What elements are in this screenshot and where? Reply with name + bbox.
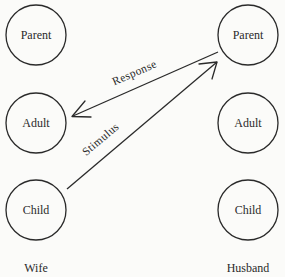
stimulus-arrow-line bbox=[67, 62, 217, 189]
wife-parent-state: Parent bbox=[6, 5, 66, 65]
response-label: Response bbox=[110, 57, 159, 88]
ego-state-diagram: Parent Adult Child Wife Parent Adult Chi… bbox=[0, 0, 285, 277]
stimulus-arrow: Stimulus bbox=[67, 62, 217, 189]
response-arrow: Response bbox=[72, 52, 218, 117]
husband-column-label: Husband bbox=[227, 261, 270, 275]
husband-column: Parent Adult Child Husband bbox=[218, 5, 278, 275]
stimulus-label: Stimulus bbox=[80, 120, 121, 158]
husband-child-label: Child bbox=[235, 203, 262, 217]
husband-parent-label: Parent bbox=[233, 28, 264, 42]
wife-child-label: Child bbox=[23, 203, 50, 217]
wife-adult-label: Adult bbox=[22, 116, 50, 130]
wife-parent-label: Parent bbox=[21, 28, 52, 42]
husband-adult-label: Adult bbox=[234, 116, 262, 130]
wife-adult-state: Adult bbox=[6, 93, 66, 153]
wife-column: Parent Adult Child Wife bbox=[6, 5, 66, 275]
husband-adult-state: Adult bbox=[218, 93, 278, 153]
wife-column-label: Wife bbox=[24, 261, 48, 275]
husband-parent-state: Parent bbox=[218, 5, 278, 65]
wife-child-state: Child bbox=[6, 180, 66, 240]
husband-child-state: Child bbox=[218, 180, 278, 240]
